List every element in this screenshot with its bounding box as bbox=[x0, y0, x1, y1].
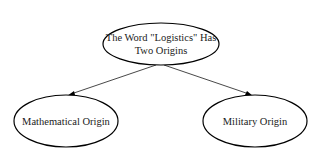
root-node: The Word "Logistics" Has Two Origins bbox=[103, 23, 219, 65]
military-origin-label: Military Origin bbox=[223, 116, 288, 127]
diagram-canvas: The Word "Logistics" Has Two Origins Mat… bbox=[0, 0, 321, 156]
root-node-label-line2: Two Origins bbox=[135, 45, 188, 56]
military-origin-node: Military Origin bbox=[203, 95, 307, 147]
edge-root-to-military bbox=[164, 65, 253, 96]
root-node-label-line1: The Word "Logistics" Has bbox=[106, 32, 216, 43]
math-origin-label: Mathematical Origin bbox=[22, 116, 111, 127]
edge-root-to-math bbox=[67, 65, 156, 96]
math-origin-node: Mathematical Origin bbox=[14, 95, 118, 147]
